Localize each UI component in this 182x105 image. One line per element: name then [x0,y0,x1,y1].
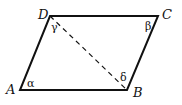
parallelogram-diagram: A B C D α β γ δ [0,0,182,105]
angle-label-beta: β [145,20,151,33]
diagonal-db [50,16,127,90]
angle-label-delta: δ [120,71,127,84]
angle-label-alpha: α [27,77,35,90]
parallelogram-abcd [20,16,158,90]
vertex-label-b: B [132,85,143,100]
vertex-label-d: D [37,7,49,22]
angle-label-gamma: γ [51,21,58,34]
vertex-label-c: C [162,7,172,22]
vertex-label-a: A [5,82,15,97]
